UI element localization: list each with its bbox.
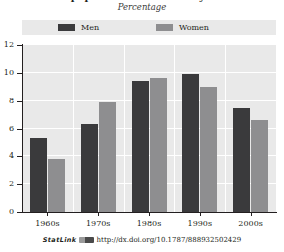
y-tick-mark xyxy=(17,184,22,185)
x-tick-label: 2000s xyxy=(226,219,276,228)
statlink-label: StatLink xyxy=(43,236,77,244)
legend-entry-women[interactable]: Women xyxy=(156,23,209,32)
y-tick-mark xyxy=(17,73,22,74)
bar xyxy=(81,124,98,212)
gridline xyxy=(22,72,276,73)
chart-subtitle: Percentage xyxy=(0,2,284,12)
bar xyxy=(150,78,167,212)
x-tick-mark xyxy=(149,212,150,216)
statlink-footer: StatLinkhttp://dx.doi.org/10.1787/888932… xyxy=(0,236,284,244)
bar xyxy=(132,81,149,212)
y-tick-label: 4 xyxy=(0,152,14,160)
y-tick-mark xyxy=(17,45,22,46)
y-tick-label: 10 xyxy=(0,69,14,77)
bar xyxy=(30,138,47,212)
statlink-badge-icon xyxy=(79,237,94,243)
group-separator xyxy=(73,45,74,212)
y-tick-label: 12 xyxy=(0,41,14,49)
legend-swatch-icon-women xyxy=(156,24,173,31)
y-tick-label: 0 xyxy=(0,208,14,216)
bar xyxy=(48,159,65,212)
x-tick-mark xyxy=(251,212,252,216)
y-tick-mark xyxy=(17,129,22,130)
group-separator xyxy=(124,45,125,212)
y-axis-line xyxy=(22,44,23,213)
chart-figure: Share of population with tertiary educat… xyxy=(0,0,284,252)
y-tick-mark xyxy=(17,212,22,213)
legend-swatch-icon-men xyxy=(58,24,75,31)
group-separator xyxy=(174,45,175,212)
y-tick-label: 6 xyxy=(0,125,14,133)
x-tick-mark xyxy=(98,212,99,216)
x-tick-mark xyxy=(200,212,201,216)
statlink-url[interactable]: http://dx.doi.org/10.1787/888932502429 xyxy=(97,236,242,244)
bar xyxy=(251,120,268,212)
bar xyxy=(200,87,217,212)
legend-label-women: Women xyxy=(179,23,209,32)
gridline xyxy=(22,44,276,45)
x-tick-mark xyxy=(47,212,48,216)
y-tick-mark xyxy=(17,156,22,157)
plot-area xyxy=(22,45,276,212)
bar xyxy=(99,102,116,212)
chart-legend: Men Women xyxy=(22,20,276,35)
bar xyxy=(233,108,250,212)
y-tick-label: 2 xyxy=(0,180,14,188)
y-tick-label: 8 xyxy=(0,97,14,105)
legend-entry-men[interactable]: Men xyxy=(58,23,99,32)
x-tick-label: 1990s xyxy=(175,219,225,228)
group-separator xyxy=(225,45,226,212)
x-tick-label: 1980s xyxy=(124,219,174,228)
x-tick-label: 1970s xyxy=(73,219,123,228)
legend-label-men: Men xyxy=(81,23,99,32)
x-tick-label: 1960s xyxy=(22,219,72,228)
bar xyxy=(182,74,199,212)
y-tick-mark xyxy=(17,101,22,102)
